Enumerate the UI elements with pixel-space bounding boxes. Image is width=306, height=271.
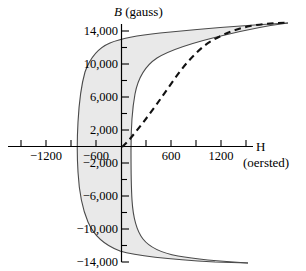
y-axis-title: B (gauss) xyxy=(114,5,163,18)
y-axis-symbol: B xyxy=(114,4,122,19)
x-tick-label-600: 600 xyxy=(156,150,186,163)
y-tick-label-minus-6000: −6,000 xyxy=(58,190,118,203)
y-axis-unit: (gauss) xyxy=(125,4,163,19)
y-tick-label-10000: 10,000 xyxy=(58,58,118,71)
bh-curve-plot xyxy=(0,0,306,271)
y-tick-label-2000: 2,000 xyxy=(58,124,118,137)
x-tick-label-1200: 1200 xyxy=(206,150,236,163)
x-axis-ticks xyxy=(21,140,246,147)
y-tick-label-minus-10000: −10,000 xyxy=(53,223,118,236)
y-tick-label-minus-14000: −14,000 xyxy=(53,256,118,269)
hysteresis-loop-figure: B (gauss) H (oersted) 14,000 10,000 6,00… xyxy=(0,0,306,271)
x-axis-unit: (oersted) xyxy=(243,156,289,169)
y-tick-label-14000: 14,000 xyxy=(58,25,118,38)
y-tick-label-6000: 6,000 xyxy=(58,91,118,104)
x-tick-label-minus-600: −600 xyxy=(66,150,126,163)
x-axis-symbol: H xyxy=(256,140,265,153)
